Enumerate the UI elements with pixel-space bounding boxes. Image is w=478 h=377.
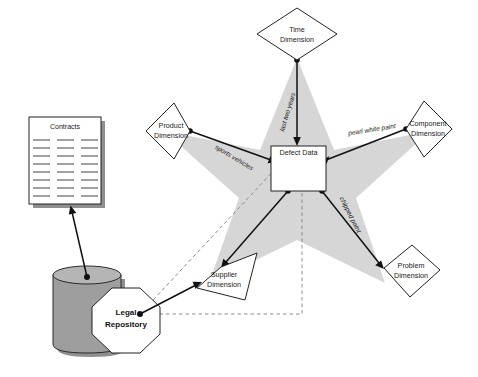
legal-repository-label-line1: Legal [116, 308, 137, 317]
star-schema-diagram: Defect Data Time Dimension Product Dimen… [0, 0, 478, 377]
legal-repository-label-line2: Repository [105, 320, 147, 329]
dimension-node-problem[interactable]: Problem Dimension [384, 245, 440, 297]
diagram-canvas: Defect Data Time Dimension Product Dimen… [0, 0, 478, 377]
contracts-page[interactable] [29, 117, 101, 204]
dimension-problem-label-line1: Problem [398, 261, 425, 270]
endpoint-dot-database [84, 274, 90, 280]
dimension-time-label-line2: Dimension [280, 35, 314, 44]
source-node-contracts[interactable]: Contracts [29, 117, 105, 208]
dimension-problem-label-line2: Dimension [394, 271, 428, 280]
dimension-component-label-line1: Component [409, 119, 446, 128]
dimension-product-label-line2: Dimension [154, 131, 188, 140]
dimension-supplier-label-line2: Dimension [207, 280, 241, 289]
source-node-legal-repository[interactable]: Legal Repository [92, 288, 160, 353]
dimension-component-label-line2: Dimension [411, 129, 445, 138]
dimension-node-component[interactable]: Component Dimension [406, 101, 452, 157]
fact-table-label: Defect Data [280, 148, 318, 157]
dimension-product-label-line1: Product [159, 121, 184, 130]
dimension-node-time[interactable]: Time Dimension [257, 8, 337, 60]
dimension-supplier-label-line1: Supplier [211, 270, 238, 279]
fact-table-defect-data[interactable]: Defect Data [271, 146, 326, 191]
contracts-title: Contracts [50, 123, 80, 130]
endpoint-dot-repository [137, 311, 143, 317]
dimension-node-product[interactable]: Product Dimension [146, 103, 190, 159]
dimension-time-label-line1: Time [289, 25, 305, 34]
